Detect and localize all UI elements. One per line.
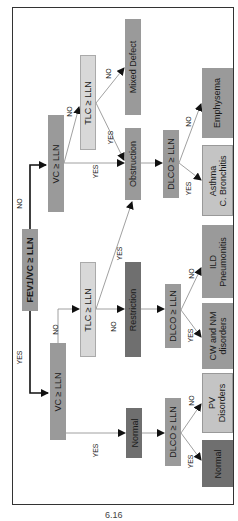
node-label: DLCO ≥ LLN: [166, 138, 176, 189]
label-line-2: Disorders: [218, 384, 228, 423]
edge-label-dlco-mid-no: NO: [188, 268, 195, 279]
node-restriction: Restriction: [125, 262, 141, 357]
node-label: PVDisorders: [208, 384, 228, 423]
node-tlc-bottom: TLC ≥ LLN: [80, 262, 96, 357]
node-asthma-bronchitis: AsthmaC. Bronchitis: [202, 145, 233, 216]
edge-label-tlc-bottom-no: NO: [110, 321, 117, 332]
edge-label-vc-top-yes: YES: [92, 164, 99, 178]
node-dlco-bottom: DLCO ≥ LLN: [165, 398, 181, 466]
label-line-2: Pneumonitis: [218, 237, 228, 287]
node-label: VC ≥ LLN: [51, 144, 61, 183]
edge-label-vc-bottom-no: NO: [52, 324, 59, 335]
node-label: Mixed Defect: [128, 41, 138, 94]
node-label: VC ≥ LLN: [53, 372, 63, 411]
edge-label-tlc-top-no: NO: [105, 68, 112, 79]
edge-label-dlco-bottom-no: NO: [188, 395, 195, 406]
node-tlc-top: TLC ≥ LLN: [80, 55, 96, 150]
node-label: Normal: [129, 418, 139, 447]
node-label: Normal: [212, 449, 222, 478]
figure-caption: 6.16: [105, 510, 123, 520]
node-label: AsthmaC. Bronchitis: [208, 155, 228, 206]
node-emphysema: Emphysema: [202, 68, 233, 138]
node-obstruction: Obstruction: [125, 128, 141, 200]
label-line-2: C. Bronchitis: [218, 155, 228, 206]
node-label: TLC ≥ LLN: [83, 81, 93, 124]
node-normal-mid: Normal: [126, 408, 142, 458]
node-normal-final: Normal: [202, 440, 233, 487]
node-cw-nm-disorders: CW and NMdisorders: [202, 303, 233, 369]
node-label: FEV1/VC ≥ LLN: [25, 238, 35, 303]
node-fev1-vc: FEV1/VC ≥ LLN: [22, 229, 38, 311]
node-dlco-top: DLCO ≥ LLN: [163, 130, 179, 198]
node-vc-top: VC ≥ LLN: [48, 115, 64, 212]
edge-label-dlco-top-yes: YES: [185, 181, 192, 195]
edge-label-dlco-bottom-yes: YES: [187, 454, 194, 468]
edge-label-root-no: NO: [16, 198, 23, 209]
edge-label-dlco-top-no: NO: [185, 116, 192, 127]
label-line-1: CW and NM: [208, 311, 218, 360]
node-label: ILDPneumonitis: [208, 237, 228, 287]
edge-label-dlco-mid-yes: YES: [187, 328, 194, 342]
node-dlco-mid: DLCO ≥ LLN: [165, 284, 181, 348]
edge-label-vc-top-no: NO: [66, 106, 73, 117]
label-line-1: PV: [208, 397, 218, 409]
node-pv-disorders: PVDisorders: [202, 373, 233, 433]
edge-label-tlc-bottom-yes: YES: [116, 246, 123, 260]
node-vc-bottom: VC ≥ LLN: [50, 343, 66, 440]
label-line-1: Asthma: [208, 165, 218, 196]
edge-label-vc-bottom-yes: YES: [92, 443, 99, 457]
node-label: CW and NMdisorders: [208, 311, 228, 360]
node-label: Restriction: [128, 288, 138, 331]
label-line-2: disorders: [218, 317, 228, 354]
node-label: TLC ≥ LLN: [83, 288, 93, 331]
node-ild-pneumonitis: ILDPneumonitis: [202, 225, 233, 298]
edge-label-tlc-top-yes: YES: [107, 130, 114, 144]
label-line-1: ILD: [208, 255, 218, 269]
node-label: Emphysema: [213, 78, 223, 128]
node-label: Obstruction: [128, 141, 138, 187]
node-label: DLCO ≥ LLN: [168, 290, 178, 341]
node-mixed-defect: Mixed Defect: [125, 19, 141, 115]
edge-label-root-yes: YES: [16, 350, 23, 364]
node-label: DLCO ≥ LLN: [168, 406, 178, 457]
